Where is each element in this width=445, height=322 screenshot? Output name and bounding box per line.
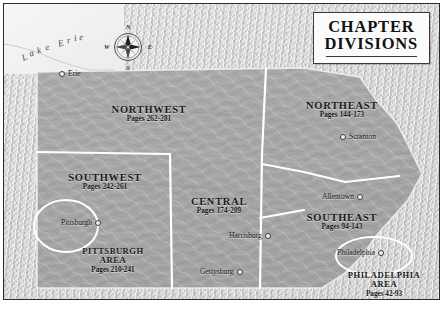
compass-rose-icon: N S E W [105,24,151,70]
map-title-cartouche: CHAPTER DIVISIONS [313,12,430,64]
city-dot-scranton [340,134,346,140]
chapter-divisions-map: L a k e E r i e [0,0,445,322]
city-name-allentown: Allentown [322,192,354,201]
city-dot-allentown [357,194,363,200]
city-marker-allentown: Allentown [322,192,363,201]
city-name-pittsburgh: Pittsburgh [61,218,92,227]
compass-north-label: N [126,23,130,30]
city-dot-harrisburg [265,233,271,239]
compass-south-label: S [127,64,130,71]
map-title-line1: CHAPTER [325,18,418,35]
city-dot-erie [59,71,65,77]
city-marker-erie: Erie [59,69,81,78]
compass-west-label: W [104,43,110,50]
city-marker-pittsburgh: Pittsburgh [61,218,101,227]
map-title-line2: DIVISIONS [325,35,418,52]
city-marker-gettysburg: Gettysburg [200,267,243,276]
city-marker-philadelphia: Philadelphia [337,248,384,257]
title-underline [326,56,417,57]
map-frame: L a k e E r i e [3,3,440,300]
city-dot-pittsburgh [95,220,101,226]
city-dot-gettysburg [237,269,243,275]
city-dot-philadelphia [378,250,384,256]
city-marker-scranton: Scranton [340,132,376,141]
city-name-scranton: Scranton [349,132,376,141]
compass-east-label: E [148,43,152,50]
city-marker-harrisburg: Harrisburg [229,231,271,240]
city-name-harrisburg: Harrisburg [229,231,262,240]
city-name-gettysburg: Gettysburg [200,267,234,276]
city-name-erie: Erie [68,69,81,78]
city-name-philadelphia: Philadelphia [337,248,375,257]
